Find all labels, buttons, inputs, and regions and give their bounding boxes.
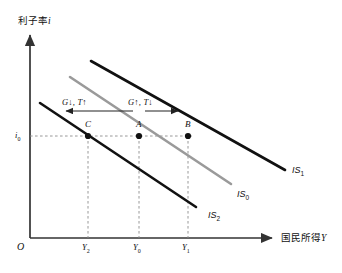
x-axis-title: 国民所得Y	[281, 233, 326, 244]
x-tick-sub-y1: 1	[187, 248, 190, 254]
y-axis-title: 利子率i	[18, 16, 51, 27]
shift-label-expansionary: G↑, T↓	[128, 98, 153, 107]
x-tick-label-Y2: Y2	[82, 243, 90, 254]
y-axis-title-cjk: 利子率	[18, 15, 48, 26]
origin-label: O	[17, 242, 24, 252]
x-axis-title-cjk: 国民所得	[281, 232, 321, 243]
curve-label-is0-main: IS	[237, 189, 246, 199]
point-label-a: A	[136, 120, 142, 129]
point-a-marker	[136, 133, 142, 139]
x-tick-label-Y0: Y0	[133, 243, 141, 254]
curve-label-is0: IS0	[237, 190, 249, 201]
y-tick-sub: 0	[17, 136, 20, 142]
x-tick-sub-y2: 2	[87, 248, 90, 254]
curve-label-is1-sub: 1	[301, 170, 305, 177]
x-tick-label-Y1: Y1	[182, 243, 190, 254]
x-axis-title-var: Y	[321, 233, 326, 243]
curve-label-is1-main: IS	[292, 165, 301, 175]
curve-is2	[40, 103, 196, 207]
point-label-c: C	[85, 120, 91, 129]
y-tick-label-i0: i0	[15, 131, 20, 142]
point-b-marker	[185, 133, 191, 139]
point-c-marker	[85, 133, 91, 139]
x-tick-sub-y0: 0	[138, 248, 141, 254]
curve-label-is0-sub: 0	[246, 194, 250, 201]
curve-label-is1: IS1	[292, 166, 304, 177]
curve-label-is2: IS2	[208, 211, 220, 222]
y-axis-title-var: i	[48, 16, 51, 26]
curve-is1	[91, 61, 285, 170]
curve-label-is2-sub: 2	[217, 215, 221, 222]
point-label-b: B	[185, 120, 191, 129]
is-curve-diagram: 利子率i 国民所得Y O i0 Y2 Y0 Y1 IS1 IS0 IS2 C A…	[0, 0, 342, 273]
curve-label-is2-main: IS	[208, 210, 217, 220]
axis-group	[30, 35, 272, 238]
shift-label-contractionary: G↓, T↑	[62, 98, 87, 107]
